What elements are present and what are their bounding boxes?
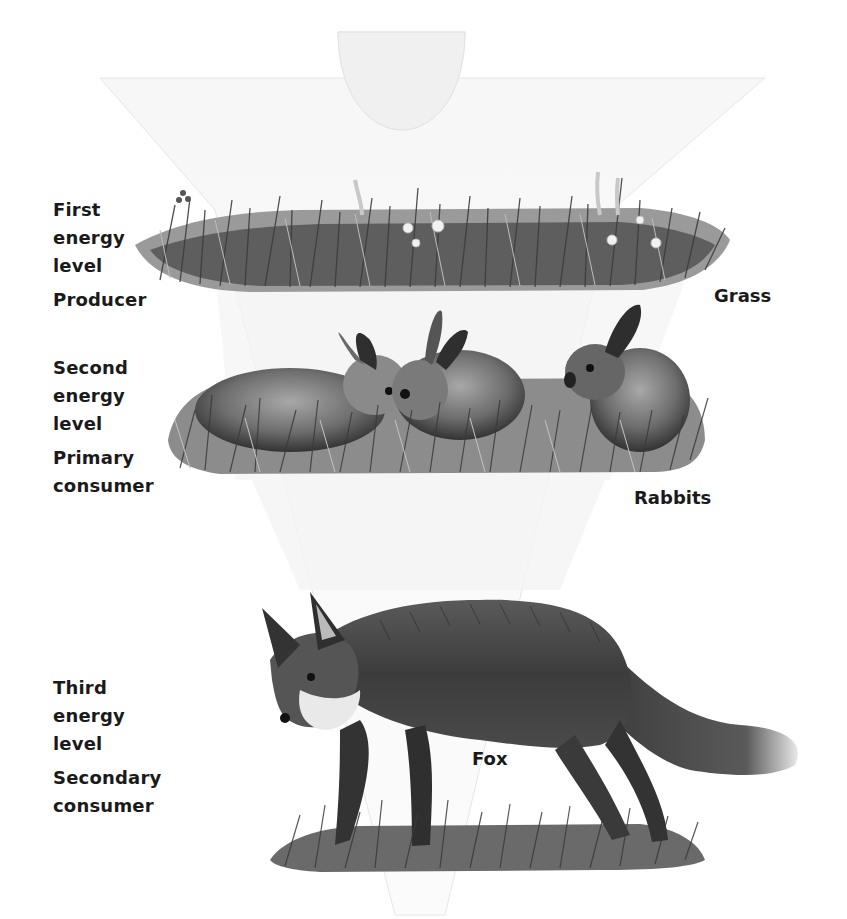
- level-3-line-3: level: [53, 730, 161, 758]
- organism-label-rabbits: Rabbits: [634, 487, 711, 508]
- level-3-role-line-1: Secondary: [53, 764, 161, 792]
- level-3-label: Third energy level Secondary consumer: [53, 674, 161, 820]
- fox-illustration: [262, 592, 798, 872]
- level-2-role-line-2: consumer: [53, 472, 154, 500]
- level-2-role-line-1: Primary: [53, 444, 154, 472]
- level-2-label: Second energy level Primary consumer: [53, 354, 154, 500]
- level-2-line-1: Second: [53, 354, 154, 382]
- level-3-line-2: energy: [53, 702, 161, 730]
- level-1-line-2: energy: [53, 224, 147, 252]
- level-3-line-1: Third: [53, 674, 161, 702]
- level-1-line-1: First: [53, 196, 147, 224]
- level-1-label: First energy level Producer: [53, 196, 147, 314]
- organism-label-fox: Fox: [472, 748, 508, 769]
- level-3-role-line-2: consumer: [53, 792, 161, 820]
- organism-label-grass: Grass: [714, 285, 771, 306]
- level-2-line-2: energy: [53, 382, 154, 410]
- food-chain-diagram: First energy level Producer Second energ…: [0, 0, 847, 919]
- level-1-role: Producer: [53, 286, 147, 314]
- level-2-line-3: level: [53, 410, 154, 438]
- level-1-line-3: level: [53, 252, 147, 280]
